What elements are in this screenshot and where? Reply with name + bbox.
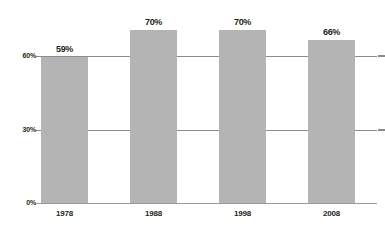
- bar-item: 59% 1978: [41, 0, 88, 245]
- bar-category-label: 1988: [130, 209, 177, 218]
- bar-group: 59% 1978 70% 1988 70% 1998 66% 2008: [41, 0, 377, 245]
- bar-item: 66% 2008: [308, 0, 355, 245]
- bar-value-label: 70%: [219, 17, 266, 27]
- bar-category-label: 2008: [308, 209, 355, 218]
- bar-rect[interactable]: [130, 30, 177, 203]
- ytick-mark-right-60: [378, 55, 385, 57]
- bar-item: 70% 1998: [219, 0, 266, 245]
- bar-category-label: 1978: [41, 209, 88, 218]
- ytick-label-0: 0%: [2, 199, 36, 206]
- bar-rect[interactable]: [219, 30, 266, 203]
- bar-value-label: 59%: [41, 44, 88, 54]
- bar-item: 70% 1988: [130, 0, 177, 245]
- bar-value-label: 70%: [130, 17, 177, 27]
- bar-chart: 60% 30% 0% 59% 1978 70% 1988 70% 1998 66…: [0, 0, 385, 245]
- ytick-label-60: 60%: [2, 52, 36, 59]
- bar-value-label: 66%: [308, 27, 355, 37]
- plot-area: 60% 30% 0% 59% 1978 70% 1988 70% 1998 66…: [0, 0, 385, 245]
- bar-category-label: 1998: [219, 209, 266, 218]
- ytick-mark-right-30: [378, 129, 385, 131]
- ytick-label-30: 30%: [2, 126, 36, 133]
- x-axis-baseline: [36, 203, 377, 204]
- bar-rect[interactable]: [308, 40, 355, 203]
- bar-rect[interactable]: [41, 57, 88, 203]
